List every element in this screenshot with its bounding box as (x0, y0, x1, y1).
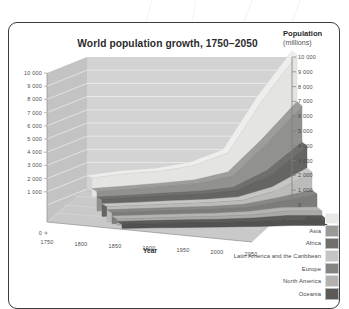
left-axis-origin-label: 0 (12, 230, 42, 236)
right-axis-tick: 10 000 (298, 54, 330, 60)
legend-swatch (325, 275, 339, 287)
x-axis-tick: 1750 (32, 239, 62, 245)
left-axis-tick: 7 000 (12, 110, 42, 116)
left-axis-tick: 6 000 (12, 123, 42, 129)
left-axis-tick: 3 000 (12, 162, 42, 168)
right-axis-tick: 2 000 (298, 172, 330, 178)
right-axis-tick: 5 000 (298, 128, 330, 134)
legend-item-africa[interactable]: Africa (234, 237, 339, 250)
left-axis-tick: 1 000 (12, 189, 42, 195)
left-axis-tick: 4 000 (12, 149, 42, 155)
left-axis-tick: 9 000 (12, 83, 42, 89)
right-axis-tick: 4 000 (298, 143, 330, 149)
left-axis-tick: 8 000 (12, 96, 42, 102)
right-axis-title: Population (millions) (283, 30, 322, 47)
left-axis-tick: 2 000 (12, 176, 42, 182)
chart-title: World population growth, 1750–2050 (60, 38, 275, 49)
legend-item-oceania[interactable]: Oceania (234, 288, 339, 301)
left-axis-tick: 10 000 (12, 70, 42, 76)
legend-swatch (325, 225, 339, 237)
right-axis-title-units: (millions) (283, 39, 322, 47)
legend-swatch (325, 213, 339, 225)
legend-item-europe[interactable]: Europe (234, 262, 339, 275)
legend-swatch (325, 263, 339, 275)
legend-item-world[interactable]: World (234, 212, 339, 225)
chart-legend: World Asia Africa Latin America and the … (234, 212, 339, 300)
legend-label: World (305, 215, 325, 221)
right-axis-tick: 3 000 (298, 158, 330, 164)
legend-swatch (325, 250, 339, 262)
right-axis-tick: 8 000 (298, 84, 330, 90)
legend-label: Latin America and the Caribbean (234, 253, 325, 259)
x-axis-tick: 2000 (202, 249, 232, 255)
right-axis-tick: 0 (298, 202, 330, 208)
legend-item-latin-america-caribbean[interactable]: Latin America and the Caribbean (234, 250, 339, 263)
legend-label: Oceania (299, 291, 325, 297)
right-axis-tick: 9 000 (298, 69, 330, 75)
right-axis-tick: 1 000 (298, 187, 330, 193)
right-axis-tick: 6 000 (298, 113, 330, 119)
legend-label: Europe (302, 266, 325, 272)
right-axis-tick: 7 000 (298, 98, 330, 104)
x-axis-title: Year (120, 247, 180, 254)
legend-item-north-america[interactable]: North America (234, 275, 339, 288)
legend-label: Africa (306, 240, 325, 246)
legend-label: Asia (309, 228, 325, 234)
legend-label: North America (283, 278, 325, 284)
left-axis-ticks (44, 73, 47, 192)
x-axis-tick: 1800 (66, 241, 96, 247)
page-texture-lines (146, 0, 300, 22)
legend-item-asia[interactable]: Asia (234, 225, 339, 238)
legend-swatch (325, 288, 339, 300)
origin-marker (45, 232, 47, 234)
legend-swatch (325, 238, 339, 250)
left-axis-tick: 5 000 (12, 136, 42, 142)
